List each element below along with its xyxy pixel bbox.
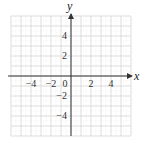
y-tick-label: 4	[62, 30, 67, 41]
y-axis-label: y	[66, 0, 73, 13]
x-tick-label: 4	[109, 78, 114, 89]
coordinate-plane: x y −4 −2 0 2 4 4 2 −2 −4	[0, 0, 146, 141]
x-tick-label: −2	[46, 78, 57, 89]
y-tick-label: −2	[56, 90, 67, 101]
x-tick-label: 2	[89, 78, 94, 89]
x-axis-label: x	[133, 69, 140, 83]
y-tick-label: 2	[62, 50, 67, 61]
origin-label: 0	[63, 78, 68, 89]
x-tick-label: −4	[26, 78, 37, 89]
y-tick-label: −4	[56, 110, 67, 121]
